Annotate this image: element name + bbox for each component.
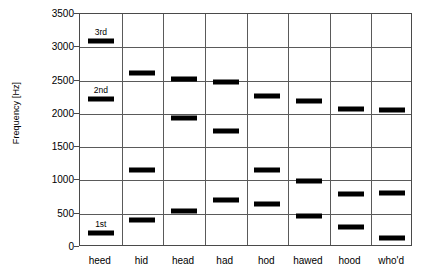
- x-axis-tick-label: head: [172, 255, 194, 266]
- gridline-vertical: [122, 14, 123, 245]
- formant-frequency-chart: Frequency [Hz] 0500100015002000250030003…: [0, 0, 426, 279]
- formant-bar: [88, 97, 114, 102]
- y-axis-tick-label: 0: [34, 241, 74, 252]
- gridline-horizontal: [80, 147, 411, 148]
- gridline-vertical: [247, 14, 248, 245]
- y-axis-tick-label: 1500: [34, 141, 74, 152]
- formant-annotation-3rd: 3rd: [95, 27, 107, 37]
- gridline-horizontal: [80, 81, 411, 82]
- formant-bar: [129, 218, 155, 223]
- gridline-vertical: [163, 14, 164, 245]
- y-axis-tick-mark: [74, 179, 79, 180]
- y-axis-tick-label: 3000: [34, 41, 74, 52]
- formant-bar: [129, 167, 155, 172]
- formant-bar: [338, 191, 364, 196]
- formant-bar: [88, 38, 114, 43]
- formant-bar: [213, 197, 239, 202]
- formant-annotation-1st: 1st: [95, 219, 106, 229]
- y-axis-tick-mark: [74, 246, 79, 247]
- y-axis-tick-mark: [74, 80, 79, 81]
- y-axis-tick-label: 1000: [34, 174, 74, 185]
- formant-bar: [171, 77, 197, 82]
- plot-area: 3rd2nd1st: [79, 13, 412, 246]
- formant-bar: [296, 98, 322, 103]
- formant-bar: [338, 225, 364, 230]
- x-axis-tick-label: hid: [135, 255, 148, 266]
- y-axis-tick-label: 3500: [34, 8, 74, 19]
- formant-bar: [213, 79, 239, 84]
- formant-bar: [338, 106, 364, 111]
- formant-bar: [254, 93, 280, 98]
- gridline-horizontal: [80, 114, 411, 115]
- gridline-vertical: [330, 14, 331, 245]
- x-axis-tick-label: hod: [258, 255, 275, 266]
- y-axis-tick-mark: [74, 146, 79, 147]
- gridline-vertical: [288, 14, 289, 245]
- y-axis-tick-label: 2000: [34, 107, 74, 118]
- gridline-horizontal: [80, 180, 411, 181]
- y-axis-tick-mark: [74, 13, 79, 14]
- gridline-vertical: [205, 14, 206, 245]
- y-axis-tick-mark: [74, 46, 79, 47]
- formant-bar: [171, 209, 197, 214]
- gridline-vertical: [371, 14, 372, 245]
- formant-bar: [254, 167, 280, 172]
- formant-annotation-2nd: 2nd: [94, 85, 108, 95]
- formant-bar: [379, 107, 405, 112]
- x-axis-tick-label: heed: [89, 255, 111, 266]
- y-axis-tick-label: 500: [34, 207, 74, 218]
- formant-bar: [296, 179, 322, 184]
- x-axis-tick-label: had: [216, 255, 233, 266]
- x-axis-tick-label: hawed: [293, 255, 322, 266]
- x-axis-tick-label: hood: [338, 255, 360, 266]
- y-axis-tick-label: 2500: [34, 74, 74, 85]
- y-axis-tick-mark: [74, 113, 79, 114]
- gridline-horizontal: [80, 47, 411, 48]
- formant-bar: [88, 231, 114, 236]
- formant-bar: [213, 129, 239, 134]
- gridline-horizontal: [80, 214, 411, 215]
- formant-bar: [296, 214, 322, 219]
- formant-bar: [379, 191, 405, 196]
- formant-bar: [379, 235, 405, 240]
- x-axis-tick-label: who'd: [378, 255, 404, 266]
- y-axis-title: Frequency [Hz]: [11, 53, 21, 173]
- formant-bar: [171, 115, 197, 120]
- y-axis-tick-container: 0500100015002000250030003500: [28, 0, 74, 279]
- formant-bar: [129, 70, 155, 75]
- formant-bar: [254, 202, 280, 207]
- y-axis-tick-mark: [74, 213, 79, 214]
